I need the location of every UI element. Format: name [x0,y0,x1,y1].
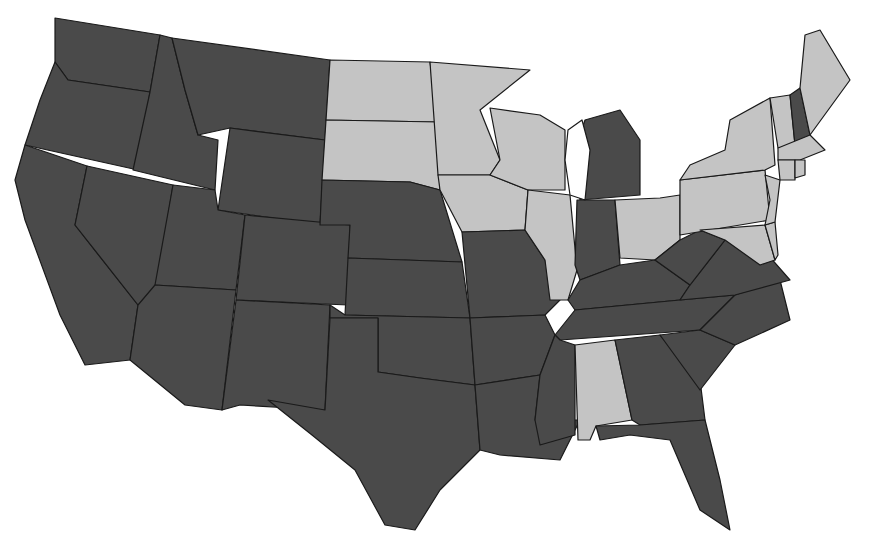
state-co [236,215,350,305]
state-wy [218,128,325,225]
state-shapes [15,18,850,530]
us-states-map [0,0,872,542]
state-wi [490,108,565,190]
state-nm [222,300,330,410]
state-sd [322,120,440,190]
state-ny [680,98,775,180]
state-mt [172,38,330,140]
state-me [800,30,850,135]
state-ri [795,160,805,178]
state-ks [345,258,470,318]
state-nd [326,60,438,122]
state-ct [778,160,795,180]
state-fl [596,420,730,530]
state-az [130,285,236,410]
